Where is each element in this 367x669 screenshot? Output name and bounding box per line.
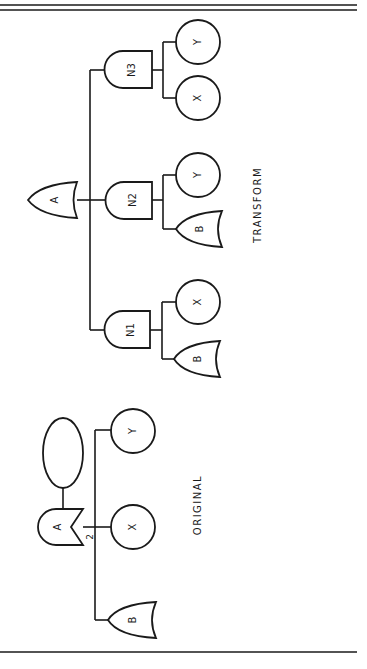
and-gate-n3: N3 Y X <box>105 20 221 120</box>
and-gate-n2: N2 Y B <box>106 153 222 247</box>
gate-label: N2 <box>127 193 138 207</box>
or-gate-a-transform: A <box>28 182 77 218</box>
transform-tree: A N3 Y X N2 Y B <box>28 20 263 377</box>
transform-caption: TRANSFORM <box>252 167 263 244</box>
event-label: Y <box>192 38 203 46</box>
event-label: Y <box>127 427 138 435</box>
condition-ellipse <box>43 418 83 488</box>
gate-label: B <box>192 355 203 362</box>
and-gate-n1: N1 X B <box>105 280 221 377</box>
fault-tree-diagram: A N3 Y X N2 Y B <box>0 0 367 669</box>
event-label: X <box>192 94 203 101</box>
gate-label: N1 <box>125 323 136 337</box>
event-label: X <box>192 298 203 305</box>
event-label: X <box>127 523 138 530</box>
gate-label: B <box>127 616 138 623</box>
original-tree: A 2 Y X B ORIGINAL <box>38 409 203 638</box>
k-of-n-label: 2 <box>85 534 95 540</box>
gate-label: B <box>194 225 205 232</box>
original-caption: ORIGINAL <box>192 475 203 535</box>
gate-label: A <box>52 523 63 530</box>
event-label: Y <box>192 171 203 179</box>
gate-label: A <box>49 196 60 203</box>
gate-label: N3 <box>126 63 137 77</box>
